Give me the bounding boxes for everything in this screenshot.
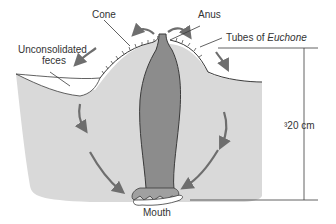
label-anus: Anus — [198, 9, 221, 21]
label-tubes-prefix: Tubes of — [226, 32, 267, 43]
label-mouth: Mouth — [143, 207, 171, 219]
label-cone: Cone — [92, 9, 116, 21]
label-depth: ³20 cm — [284, 120, 315, 132]
label-tubes: Tubes of Euchone — [226, 32, 307, 44]
label-feces: feces — [42, 55, 66, 67]
label-tubes-genus: Euchone — [267, 32, 306, 43]
